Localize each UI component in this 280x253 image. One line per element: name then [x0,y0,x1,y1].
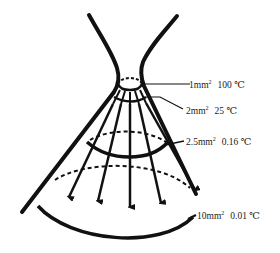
label-section-2mm: 2mm225 ℃ [186,105,237,117]
area-exponent: 2 [221,210,224,216]
label-section-1mm: 1mm2100 ℃ [189,79,245,91]
temperature-value: 0.16 ℃ [222,137,252,147]
neck-ellipse-top [118,78,142,84]
area-value: 10mm [197,211,221,221]
area-exponent: 2 [206,105,209,111]
area-exponent: 2 [209,79,212,85]
area-value: 1mm [189,80,209,90]
area-value: 2mm [186,106,206,116]
label-section-10mm: 10mm20.01 ℃ [197,210,260,222]
temperature-value: 100 ℃ [218,80,245,90]
heat-spread-diagram: 1mm2100 ℃ 2mm225 ℃ 2.5mm20.16 ℃ 10mm20.0… [0,0,280,253]
left-wall [22,15,118,212]
area-exponent: 2 [213,136,216,142]
temperature-value: 25 ℃ [215,106,238,116]
section-2-5mm [87,142,168,157]
label-section-2-5mm: 2.5mm20.16 ℃ [186,136,251,148]
heat-arrow-1 [69,104,113,197]
neck-ellipse-bottom [118,84,142,90]
temperature-value: 0.01 ℃ [230,211,260,221]
section-10mm [38,206,193,238]
area-value: 2.5mm [186,137,213,147]
